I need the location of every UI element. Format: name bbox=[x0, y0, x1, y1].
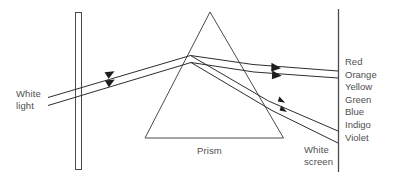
spectrum-item-orange: Orange bbox=[345, 69, 377, 82]
spectrum-item-yellow: Yellow bbox=[345, 81, 377, 94]
white-screen-label: White screen bbox=[304, 144, 333, 167]
prism-label: Prism bbox=[197, 145, 222, 157]
white-light-label-line1: White bbox=[16, 88, 41, 100]
incident-white-light-beam bbox=[48, 56, 191, 106]
white-light-label: White light bbox=[16, 88, 41, 111]
spectrum-item-violet: Violet bbox=[345, 132, 377, 145]
white-screen-label-line1: White bbox=[304, 144, 333, 156]
internal-refracted-rays bbox=[191, 56, 273, 111]
prism-triangle bbox=[145, 12, 284, 138]
emergent-upper-beams bbox=[253, 65, 338, 79]
spectrum-color-list: Red Orange Yellow Green Blue Indigo Viol… bbox=[345, 56, 377, 144]
slit-barrier bbox=[76, 13, 82, 170]
emergent-lower-beams bbox=[269, 101, 339, 143]
white-screen-label-line2: screen bbox=[304, 156, 333, 168]
spectrum-item-green: Green bbox=[345, 94, 377, 107]
upper-beam-arrowheads bbox=[271, 63, 282, 79]
spectrum-item-blue: Blue bbox=[345, 106, 377, 119]
spectrum-item-indigo: Indigo bbox=[345, 119, 377, 132]
white-light-label-line2: light bbox=[16, 100, 41, 112]
prism-dispersion-figure: White light Prism White screen Red Orang… bbox=[0, 0, 394, 179]
lower-beam-arrowheads bbox=[278, 96, 287, 112]
spectrum-item-red: Red bbox=[345, 56, 377, 69]
